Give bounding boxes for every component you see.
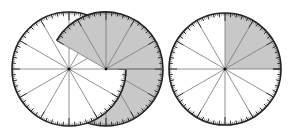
fraction-circles-figure <box>0 0 292 137</box>
right-quarter-circle <box>169 13 281 125</box>
